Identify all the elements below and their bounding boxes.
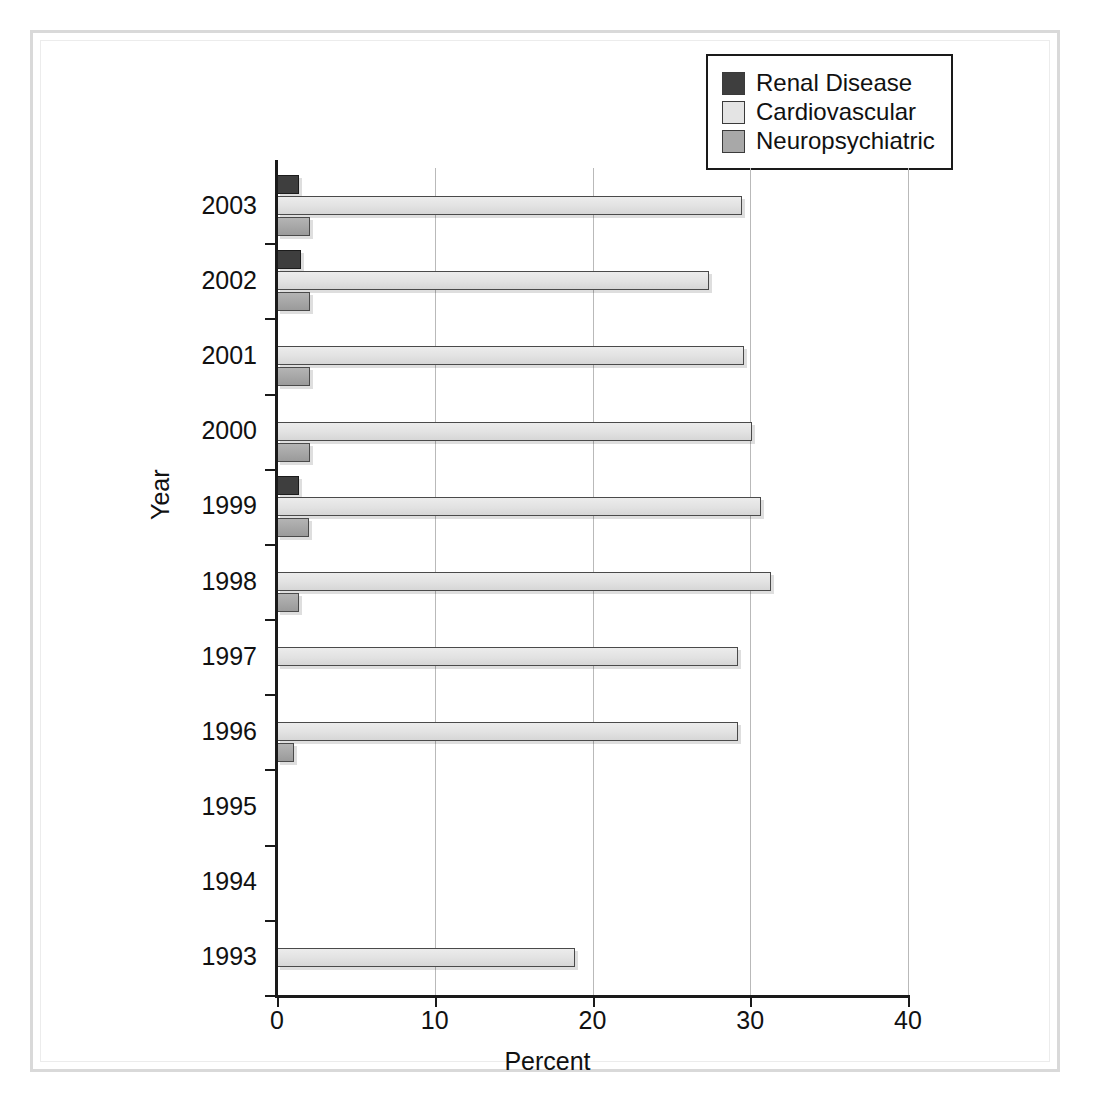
x-axis-tick-label: 0 bbox=[237, 1008, 317, 1033]
bar-neuro-2003 bbox=[277, 217, 310, 236]
legend-item-label: Neuropsychiatric bbox=[756, 129, 935, 153]
y-axis-tick-label: 2000 bbox=[137, 418, 257, 443]
bar-cardio-1999 bbox=[277, 497, 761, 516]
x-axis-tick-label: 40 bbox=[868, 1008, 948, 1033]
bar-neuro-1999 bbox=[277, 518, 309, 537]
bar-neuro-2000 bbox=[277, 443, 310, 462]
y-axis-tick-label: 2003 bbox=[137, 193, 257, 218]
bar-cardio-2002 bbox=[277, 271, 709, 290]
x-axis-tick-label: 30 bbox=[710, 1008, 790, 1033]
y-axis-tick-label: 1995 bbox=[137, 794, 257, 819]
bar-cardio-2000 bbox=[277, 422, 752, 441]
bar-cardio-1996 bbox=[277, 722, 738, 741]
bar-cardio-2003 bbox=[277, 196, 742, 215]
bar-cardio-1997 bbox=[277, 647, 738, 666]
y-axis-tick-label: 1999 bbox=[137, 493, 257, 518]
bar-neuro-1998 bbox=[277, 593, 299, 612]
chart-page: Renal DiseaseCardiovascularNeuropsychiat… bbox=[0, 0, 1095, 1108]
gridline bbox=[908, 168, 909, 995]
x-axis-tick-label: 20 bbox=[553, 1008, 633, 1033]
x-axis-line bbox=[275, 995, 910, 998]
legend-item-cardio: Cardiovascular bbox=[722, 100, 935, 124]
x-axis-title: Percent bbox=[0, 1047, 1095, 1076]
y-axis-tick-label: 2001 bbox=[137, 343, 257, 368]
legend-swatch-icon-renal bbox=[722, 72, 745, 95]
bar-renal-2002 bbox=[277, 250, 301, 269]
y-axis-tick-label: 1994 bbox=[137, 869, 257, 894]
legend-item-label: Renal Disease bbox=[756, 71, 912, 95]
bar-renal-2003 bbox=[277, 175, 299, 194]
legend-item-label: Cardiovascular bbox=[756, 100, 916, 124]
bar-neuro-2001 bbox=[277, 367, 310, 386]
bar-neuro-1996 bbox=[277, 743, 294, 762]
bar-cardio-1998 bbox=[277, 572, 771, 591]
y-axis-tick-label: 1996 bbox=[137, 719, 257, 744]
bar-neuro-2002 bbox=[277, 292, 310, 311]
y-axis-line bbox=[275, 160, 278, 998]
bar-renal-1999 bbox=[277, 476, 299, 495]
y-axis-tick-label: 1998 bbox=[137, 569, 257, 594]
y-axis-tick-label: 2002 bbox=[137, 268, 257, 293]
bar-cardio-2001 bbox=[277, 346, 744, 365]
legend-item-renal: Renal Disease bbox=[722, 71, 935, 95]
y-axis-tick-label: 1997 bbox=[137, 644, 257, 669]
bar-cardio-1993 bbox=[277, 948, 575, 967]
x-axis-tick-label: 10 bbox=[395, 1008, 475, 1033]
y-axis-tick-label: 1993 bbox=[137, 944, 257, 969]
chart-legend: Renal DiseaseCardiovascularNeuropsychiat… bbox=[706, 54, 953, 170]
legend-swatch-icon-neuro bbox=[722, 130, 745, 153]
plot-area bbox=[277, 168, 908, 995]
legend-swatch-icon-cardio bbox=[722, 101, 745, 124]
legend-item-neuro: Neuropsychiatric bbox=[722, 129, 935, 153]
